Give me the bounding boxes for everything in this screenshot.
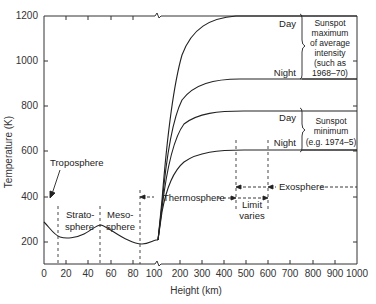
y-axis-title: Temperature (K) [3, 116, 14, 188]
label-troposphere: Troposphere [50, 157, 104, 168]
label-mesosphere-2: sphere [106, 221, 135, 232]
label-limit: Limit [242, 199, 262, 210]
label-max-day: Day [279, 18, 296, 29]
label-varies: varies [239, 210, 265, 221]
svg-text:200: 200 [21, 236, 38, 247]
label-max-text-3: intensity [314, 48, 346, 58]
svg-text:1000: 1000 [16, 55, 39, 66]
svg-text:600: 600 [21, 145, 38, 156]
label-min-night: Night [274, 137, 297, 148]
svg-text:1000: 1000 [346, 268, 369, 279]
svg-text:900: 900 [327, 268, 344, 279]
svg-text:300: 300 [194, 268, 211, 279]
label-min-text-2: (e.g. 1974–5) [306, 137, 357, 147]
label-min-text-0: Sunspot [315, 116, 347, 126]
svg-text:500: 500 [238, 268, 255, 279]
label-stratosphere-1: Strato- [66, 209, 95, 220]
svg-text:800: 800 [21, 100, 38, 111]
svg-text:600: 600 [260, 268, 277, 279]
y-tick-labels: 200 400 600 800 1000 1200 [16, 10, 39, 247]
label-max-text-1: maximum [312, 28, 349, 38]
annotations: Troposphere Strato- sphere Meso- sphere … [50, 18, 356, 232]
label-thermosphere: Thermosphere [163, 192, 225, 203]
svg-text:400: 400 [21, 191, 38, 202]
svg-text:700: 700 [282, 268, 299, 279]
svg-text:60: 60 [105, 268, 117, 279]
x-tick-labels: 0 20 40 60 80 100 200 300 400 500 600 70… [41, 268, 368, 279]
label-max-text-5: 1968–70) [312, 68, 348, 78]
label-max-text-0: Sunspot [314, 18, 346, 28]
svg-text:400: 400 [216, 268, 233, 279]
label-min-text-1: minimum [314, 126, 348, 136]
label-max-text-4: (such as [314, 58, 346, 68]
label-max-text-2: of average [310, 38, 350, 48]
label-min-day: Day [279, 112, 296, 123]
svg-text:40: 40 [82, 268, 94, 279]
atmosphere-temperature-chart: 200 400 600 800 1000 1200 0 20 40 60 80 … [0, 0, 376, 304]
svg-text:100: 100 [146, 268, 163, 279]
x-axis-title: Height (km) [170, 285, 222, 296]
lower-atmosphere-curve [44, 222, 158, 244]
svg-text:800: 800 [305, 268, 322, 279]
label-stratosphere-2: sphere [65, 221, 94, 232]
svg-text:1200: 1200 [16, 10, 39, 21]
svg-text:0: 0 [41, 268, 47, 279]
svg-text:200: 200 [172, 268, 189, 279]
svg-text:20: 20 [60, 268, 72, 279]
label-mesosphere-1: Meso- [107, 209, 133, 220]
label-max-night: Night [274, 67, 297, 78]
label-exosphere: Exosphere [279, 181, 324, 192]
svg-text:80: 80 [127, 268, 139, 279]
